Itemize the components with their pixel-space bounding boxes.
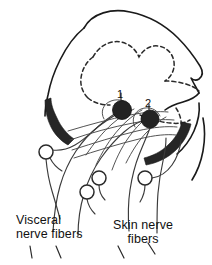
fiber-cross-b [72, 127, 177, 150]
stalk-left [50, 158, 62, 171]
visceral-label-line-1: Visceral [16, 213, 61, 227]
leader-visceral-right [56, 246, 61, 258]
stalk-lower-left [87, 199, 95, 214]
gray-matter-dorsal-horn [93, 42, 174, 81]
stalk-right [140, 185, 145, 202]
leader-visceral-left [30, 246, 32, 258]
ganglion-cell-right [138, 171, 152, 185]
cord-outline-group [45, 11, 205, 180]
visceral-label-line-2: nerve fibers [16, 227, 83, 241]
skin-label-line-2: fibers [113, 232, 173, 246]
neuron-two-number: 2 [145, 98, 151, 109]
cord-right-tail [192, 118, 205, 180]
ganglion-cells-group [39, 145, 152, 199]
skin-label-line-1: Skin nerve [113, 218, 173, 232]
left-dark-band [45, 98, 74, 145]
neuron-one-node [113, 101, 132, 120]
neuron-one-number: 1 [117, 89, 123, 100]
visceral-nerve-fibers-label: Visceral nerve fibers [16, 213, 83, 241]
gray-matter-left-arc [81, 57, 93, 98]
ganglion-cell-center [92, 171, 106, 185]
ganglion-cell-left [39, 145, 53, 159]
neuron-two-node [141, 110, 159, 128]
leader-skin-left [118, 246, 124, 258]
nerve-fiber-diagram: Visceral nerve fibers Skin nerve fibers … [0, 0, 212, 265]
stalk-center [99, 185, 105, 200]
skin-nerve-fibers-label: Skin nerve fibers [113, 218, 173, 246]
ganglion-cell-lower-left [80, 185, 94, 199]
cord-lower-right-boundary [165, 93, 199, 110]
